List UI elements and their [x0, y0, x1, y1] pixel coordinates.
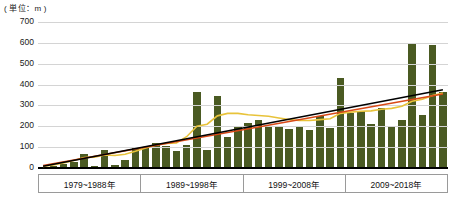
bar-cell	[100, 22, 110, 168]
bar-cell	[151, 22, 161, 168]
bar	[419, 115, 426, 168]
bar-cell	[161, 22, 171, 168]
bar	[214, 96, 221, 168]
bar-series	[38, 22, 448, 168]
decade-group-2009~2018年: 2009~2018年	[346, 175, 447, 192]
bar	[357, 111, 364, 168]
bar	[193, 92, 200, 168]
bar-cell	[366, 22, 376, 168]
bar-cell	[243, 22, 253, 168]
y-axis-tick-labels: 0100200300400500600700	[0, 22, 34, 168]
y-axis-tick-600: 600	[0, 38, 34, 47]
bar	[326, 128, 333, 168]
y-axis-tick-0: 0	[0, 163, 34, 172]
bar-cell	[294, 22, 304, 168]
bar-cell	[223, 22, 233, 168]
bar	[337, 78, 344, 168]
bar	[101, 150, 108, 168]
decade-group-axis: 1979~1988年1989~1998年1999~2008年2009~2018年	[38, 174, 448, 193]
bar	[347, 113, 354, 168]
y-axis-tick-700: 700	[0, 17, 34, 26]
y-axis-tick-400: 400	[0, 80, 34, 89]
axis-baseline	[38, 167, 448, 169]
bar-cell	[141, 22, 151, 168]
bar-cell	[356, 22, 366, 168]
bar-cell	[335, 22, 345, 168]
bar-cell	[346, 22, 356, 168]
y-axis-tick-100: 100	[0, 142, 34, 151]
bar	[378, 108, 385, 168]
y-axis-tick-300: 300	[0, 100, 34, 109]
bar-cell	[274, 22, 284, 168]
bar-cell	[110, 22, 120, 168]
bar-cell	[264, 22, 274, 168]
decade-group-1989~1998年: 1989~1998年	[141, 175, 243, 192]
y-axis-unit-label: ( 単位：m )	[4, 2, 47, 13]
bar-cell	[89, 22, 99, 168]
bar-cell	[428, 22, 438, 168]
bar	[162, 146, 169, 168]
gridline-500	[38, 64, 448, 65]
bar	[203, 150, 210, 168]
bar-cell	[315, 22, 325, 168]
y-axis-tick-200: 200	[0, 121, 34, 130]
bar-cell	[120, 22, 130, 168]
decade-group-1979~1988年: 1979~1988年	[39, 175, 141, 192]
bar-cell	[130, 22, 140, 168]
bar	[244, 123, 251, 168]
bar-cell	[69, 22, 79, 168]
y-axis-tick-500: 500	[0, 59, 34, 68]
bar-cell	[233, 22, 243, 168]
gridline-100	[38, 147, 448, 148]
bar-cell	[325, 22, 335, 168]
gridline-700	[38, 22, 448, 23]
bar-cell	[376, 22, 386, 168]
bar	[173, 151, 180, 168]
bar	[285, 129, 292, 168]
bar	[439, 92, 446, 168]
bar-cell	[192, 22, 202, 168]
bar	[142, 147, 149, 168]
bar-cell	[59, 22, 69, 168]
bar-cell	[387, 22, 397, 168]
gridline-600	[38, 43, 448, 44]
bar	[306, 130, 313, 168]
bar	[132, 148, 139, 168]
bar-cell	[182, 22, 192, 168]
bar-cell	[79, 22, 89, 168]
bar	[367, 124, 374, 168]
bar	[316, 116, 323, 168]
bar-cell	[407, 22, 417, 168]
decade-group-1999~2008年: 1999~2008年	[244, 175, 346, 192]
bar	[224, 137, 231, 168]
bar-cell	[438, 22, 448, 168]
bar	[80, 154, 87, 168]
gridline-300	[38, 105, 448, 106]
bar-cell	[253, 22, 263, 168]
bar-cell	[48, 22, 58, 168]
bar	[183, 145, 190, 168]
bar-cell	[417, 22, 427, 168]
bar-cell	[171, 22, 181, 168]
bar-cell	[212, 22, 222, 168]
bar-cell	[202, 22, 212, 168]
gridline-200	[38, 126, 448, 127]
bar-cell	[397, 22, 407, 168]
bar-cell	[284, 22, 294, 168]
bar-cell	[38, 22, 48, 168]
chart-root: ( 単位：m ) 0100200300400500600700 1979~198…	[0, 0, 452, 207]
gridline-400	[38, 85, 448, 86]
bar-cell	[305, 22, 315, 168]
plot-area	[38, 22, 448, 168]
